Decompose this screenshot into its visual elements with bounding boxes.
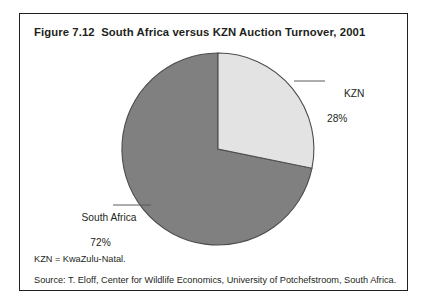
south-africa-callout-value: 72% bbox=[53, 237, 148, 250]
kzn-callout-value: 28% bbox=[327, 113, 364, 126]
footnote-source: Source: T. Eloff, Center for Wildlife Ec… bbox=[34, 275, 396, 285]
kzn-callout-name: KZN bbox=[344, 88, 364, 99]
south-africa-callout-name: South Africa bbox=[82, 212, 137, 223]
footnote-abbreviation: KZN = KwaZulu-Natal. bbox=[34, 254, 126, 264]
kzn-callout: KZN 28% bbox=[327, 75, 364, 150]
figure-frame: Figure 7.12 South Africa versus KZN Auct… bbox=[19, 13, 408, 291]
pie-slice-kzn[interactable] bbox=[218, 53, 314, 168]
pie-chart: KZN 28% South Africa 72% bbox=[20, 14, 409, 292]
